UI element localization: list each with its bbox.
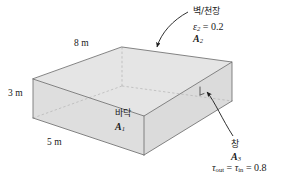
dimension-label-length: 8 m <box>74 38 89 49</box>
window-transmissivity-label: τout = τin = 0.8 <box>212 162 267 174</box>
figure-container: 8 m 3 m 5 m 벽/천장 ε2 = 0.2 A2 바닥 A1 창 A3 … <box>0 0 306 179</box>
tau-out-subscript: out <box>216 166 224 173</box>
window-name-label: 창 <box>231 139 239 149</box>
dimension-label-height: 3 m <box>8 88 23 99</box>
tau-value: = 0.8 <box>243 162 266 173</box>
area1-subscript: 1 <box>122 125 125 132</box>
room-box-illustration <box>0 0 306 179</box>
floor-area-label: A1 <box>115 121 125 133</box>
wall-ceiling-emissivity-label: ε2 = 0.2 <box>193 21 223 33</box>
wall-ceiling-name-label: 벽/천장 <box>193 6 220 16</box>
dimension-label-width: 5 m <box>47 137 62 148</box>
floor-name-label: 바닥 <box>115 108 131 118</box>
area2-subscript: 2 <box>200 37 203 44</box>
wall-ceiling-leader-arrow <box>157 12 188 47</box>
epsilon-value: = 0.2 <box>200 21 223 32</box>
area3-symbol: A <box>231 151 238 162</box>
area1-symbol: A <box>115 121 122 132</box>
wall-ceiling-area-label: A2 <box>193 33 203 45</box>
tau-equals-1: = <box>224 162 235 173</box>
area2-symbol: A <box>193 33 200 44</box>
